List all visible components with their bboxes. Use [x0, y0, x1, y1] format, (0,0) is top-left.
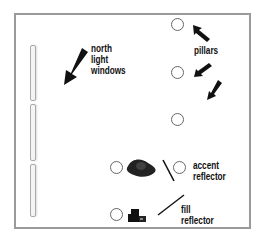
camera-icon — [128, 209, 146, 222]
pillars-label: pillars — [194, 45, 218, 56]
accent-reflector-label: accent reflector — [193, 160, 226, 182]
subject-icon — [127, 160, 156, 177]
label-line: fill — [181, 204, 214, 215]
label-line: light — [91, 54, 126, 65]
fill-reflector-label: fill reflector — [181, 204, 214, 226]
label-line: north — [91, 43, 126, 54]
label-line: accent — [193, 160, 226, 171]
diagram-shapes — [0, 0, 267, 245]
pillar-arrow-3-icon — [207, 80, 222, 100]
label-line: pillars — [194, 45, 218, 56]
label-line: windows — [91, 65, 126, 76]
label-line: reflector — [193, 171, 226, 182]
label-line: reflector — [181, 215, 214, 226]
pillar-arrow-1-icon — [193, 25, 210, 42]
north-light-windows-label: north light windows — [91, 43, 126, 76]
north-light-arrow-icon — [64, 48, 88, 85]
pillar-arrow-2-icon — [194, 63, 212, 77]
accent-reflector-icon — [163, 160, 174, 181]
